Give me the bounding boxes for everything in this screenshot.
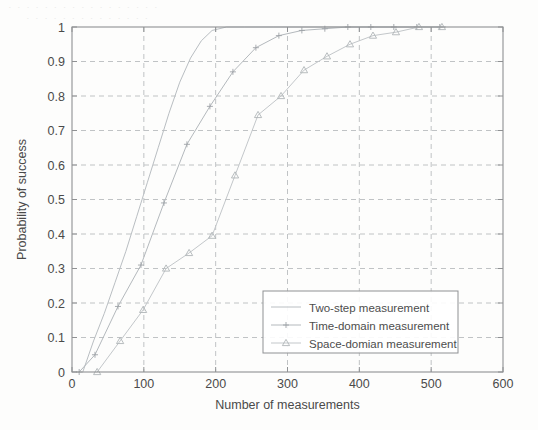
xtick-label: 100 xyxy=(133,377,154,391)
ytick-label: 0.9 xyxy=(48,55,65,69)
plus-marker xyxy=(299,27,305,33)
legend-label: Space-domian measurement xyxy=(309,338,457,350)
ytick-label: 0.2 xyxy=(48,297,65,311)
xtick-label: 300 xyxy=(277,377,298,391)
ytick-label: 1 xyxy=(58,21,65,35)
legend-label: Two-step measurement xyxy=(309,302,430,314)
ytick-label: 0.7 xyxy=(48,124,65,138)
x-axis-title: Number of measurements xyxy=(215,398,360,412)
xtick-label: 600 xyxy=(493,377,514,391)
plus-marker xyxy=(115,303,121,309)
xtick-label: 500 xyxy=(421,377,442,391)
xtick-label: 400 xyxy=(349,377,370,391)
legend-label: Time-domain measurement xyxy=(309,320,450,332)
ytick-label: 0.3 xyxy=(48,262,65,276)
plus-marker xyxy=(276,33,282,39)
y-axis-title: Probability of success xyxy=(15,139,29,260)
figure-container: · · · · · · · · · · · · · · · · · · · · … xyxy=(0,0,538,430)
xtick-label: 200 xyxy=(205,377,226,391)
xtick-label: 0 xyxy=(69,377,76,391)
ytick-label: 0.6 xyxy=(48,159,65,173)
axis-titles-group: Number of measurementsProbability of suc… xyxy=(15,139,360,412)
plus-marker xyxy=(207,103,213,109)
ytick-label: 0.5 xyxy=(48,193,65,207)
plus-marker xyxy=(184,141,190,147)
legend[interactable]: Two-step measurementTime-domain measurem… xyxy=(263,291,458,353)
plus-marker xyxy=(161,200,167,206)
plus-marker xyxy=(138,262,144,268)
ytick-label: 0.8 xyxy=(48,90,65,104)
ytick-label: 0.1 xyxy=(48,331,65,345)
ytick-label: 0 xyxy=(58,366,65,380)
ytick-label: 0.4 xyxy=(48,228,65,242)
chart-svg: 010020030040050060000.10.20.30.40.50.60.… xyxy=(0,0,538,430)
